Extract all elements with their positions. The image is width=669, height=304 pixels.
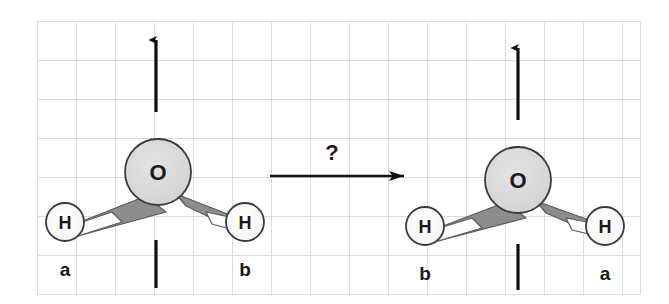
atom-hydrogen-left-a: H: [46, 203, 84, 241]
atom-hydrogen-left-b: H: [226, 203, 264, 241]
atom-label-hydrogen-left-b: H: [239, 213, 252, 233]
atom-oxygen-right: O: [485, 147, 551, 213]
atom-label-oxygen-left: O: [149, 160, 166, 185]
molecule-transformation-figure: O H H a b ?: [0, 0, 669, 304]
transformation-arrow-group: ?: [270, 140, 404, 176]
group-label-left-b: b: [239, 259, 251, 280]
transformation-question-label: ?: [325, 140, 338, 165]
atom-label-oxygen-right: O: [509, 168, 526, 193]
figure-canvas: O H H a b ?: [0, 0, 669, 304]
atom-label-hydrogen-right-b: H: [419, 217, 432, 237]
atom-label-hydrogen-right-a: H: [599, 217, 612, 237]
atom-hydrogen-right-b: H: [406, 207, 444, 245]
atom-oxygen-left: O: [125, 139, 191, 205]
group-label-right-b: b: [419, 263, 431, 284]
molecule-water-left: O H H a b: [46, 40, 264, 288]
atom-label-hydrogen-left-a: H: [59, 213, 72, 233]
group-label-right-a: a: [600, 263, 611, 284]
atom-hydrogen-right-a: H: [586, 207, 624, 245]
molecule-water-right: O H H b a: [406, 48, 624, 290]
group-label-left-a: a: [60, 259, 71, 280]
